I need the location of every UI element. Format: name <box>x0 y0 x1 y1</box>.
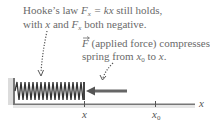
x-axis-label: x <box>198 97 204 109</box>
caption-applied-force-line2: spring from x0 to x. <box>82 50 167 64</box>
hookes-law-compression-diagram: Hooke’s law Fx = kx still holds, with x … <box>0 0 210 127</box>
tick-x-label: x <box>81 108 87 120</box>
dotted-pointer-to-force-arrow <box>103 63 113 78</box>
x-axis-shadow <box>13 105 195 108</box>
compressed-spring <box>15 82 84 100</box>
caption-applied-force-line1: F (applied force) compresses <box>81 37 210 50</box>
spring-end-plate <box>83 82 85 100</box>
dotted-pointer-arrowhead-icon <box>38 70 44 76</box>
caption-hookes-law-line1: Hooke’s law Fx = kx still holds, <box>23 4 162 18</box>
wall-face <box>13 78 15 105</box>
tick-x0-label: x0 <box>151 108 161 122</box>
caption-hookes-law-line2: with x and Fx both negative. <box>23 18 147 32</box>
x-axis-line <box>13 104 195 106</box>
dotted-pointer-to-spring <box>41 31 47 72</box>
applied-force-arrow <box>86 87 127 96</box>
